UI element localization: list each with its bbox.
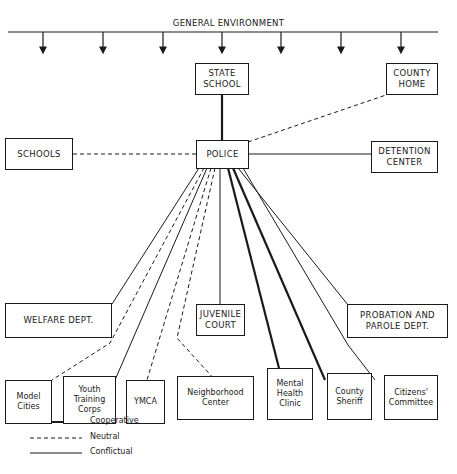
node-juvenile-court: JUVENILE COURT xyxy=(196,304,245,336)
legend-cooperative-label: Cooperative xyxy=(90,416,139,425)
node-state-school: STATE SCHOOL xyxy=(195,63,249,95)
node-probation-parole: PROBATION AND PAROLE DEPT. xyxy=(347,304,448,338)
node-police: POLICE xyxy=(196,140,249,169)
link-citizens xyxy=(243,168,375,380)
node-schools: SCHOOLS xyxy=(5,138,73,170)
link-youth-training xyxy=(115,168,207,380)
legend-neutral-label: Neutral xyxy=(90,432,120,441)
node-county-home: COUNTY HOME xyxy=(386,63,438,95)
node-welfare-dept: WELFARE DEPT. xyxy=(5,303,112,338)
link-welfare xyxy=(112,168,199,304)
link-neighborhood xyxy=(177,168,215,380)
node-citizens-committee: Citizens' Committee xyxy=(384,375,438,420)
node-detention-center: DETENTION CENTER xyxy=(371,141,438,173)
general-environment-title: GENERAL ENVIRONMENT xyxy=(0,18,457,28)
environment-arrows xyxy=(40,32,404,53)
link-mental-health xyxy=(228,168,282,380)
node-mental-health-clinic: Mental Health Clinic xyxy=(267,368,313,420)
legend-conflictual-label: Conflictual xyxy=(90,447,133,456)
node-model-cities: Model Cities xyxy=(5,380,52,424)
link-county-sheriff xyxy=(233,168,325,380)
link-model-cities xyxy=(52,168,204,380)
node-county-sheriff: County Sheriff xyxy=(327,373,372,420)
link-probation xyxy=(238,168,348,305)
link-county-home xyxy=(248,95,386,142)
node-neighborhood-center: Neighborhood Center xyxy=(177,376,254,420)
